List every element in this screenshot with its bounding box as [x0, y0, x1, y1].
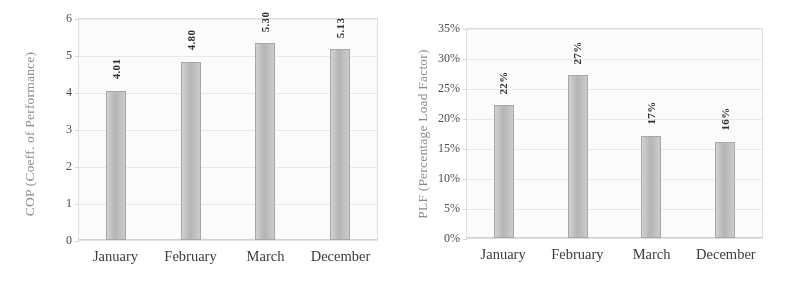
cop-x-category-labels: January February March December	[78, 248, 378, 265]
plf-chart-panel: PLF (Percentage Load Factor) 35% 30% 25%…	[396, 0, 793, 287]
plf-xlabel-january: January	[466, 246, 540, 263]
cop-bar-january[interactable]	[106, 91, 126, 240]
cop-ytick-3: 3	[66, 122, 72, 137]
cop-xlabel-february: February	[153, 248, 228, 265]
cop-bar-label-march: 5.30	[259, 12, 271, 32]
plf-ytick-35: 35%	[438, 21, 460, 36]
cop-tick-0	[75, 241, 79, 242]
cop-chart-panel: COP (Coeff. of Performance) 6 5 4 3 2 1 …	[0, 0, 396, 287]
cop-ytick-6: 6	[66, 11, 72, 26]
cop-ytick-1: 1	[66, 196, 72, 211]
cop-bar-label-february: 4.80	[185, 30, 197, 50]
plf-ytick-10: 10%	[438, 171, 460, 186]
cop-bar-february[interactable]	[181, 62, 201, 240]
plf-ytick-15: 15%	[438, 141, 460, 156]
cop-ytick-4: 4	[66, 85, 72, 100]
cop-ytick-2: 2	[66, 159, 72, 174]
cop-bar-slot-february: 4.80	[154, 19, 229, 240]
plf-bar-slot-december: 16%	[688, 29, 762, 238]
cop-xlabel-december: December	[303, 248, 378, 265]
plf-bar-label-march: 17%	[645, 102, 657, 125]
plf-ytick-30: 30%	[438, 51, 460, 66]
plf-tick-0	[463, 239, 467, 240]
plf-bar-slot-march: 17%	[615, 29, 689, 238]
plf-bar-label-february: 27%	[572, 42, 584, 65]
figure-container: COP (Coeff. of Performance) 6 5 4 3 2 1 …	[0, 0, 793, 287]
plf-xlabel-february: February	[540, 246, 614, 263]
plf-bar-label-january: 22%	[498, 72, 510, 95]
plf-bar-march[interactable]	[641, 136, 661, 239]
plf-bar-slot-january: 22%	[467, 29, 541, 238]
cop-bar-slot-december: 5.13	[303, 19, 378, 240]
plf-bars: 22% 27% 17% 16%	[467, 29, 762, 238]
plf-y-tick-labels: 35% 30% 25% 20% 15% 10% 5% 0%	[418, 28, 460, 238]
plf-plot-area: 22% 27% 17% 16%	[466, 28, 763, 239]
plf-bar-february[interactable]	[568, 75, 588, 238]
cop-bar-label-december: 5.13	[334, 18, 346, 38]
plf-bar-slot-february: 27%	[541, 29, 615, 238]
cop-ytick-0: 0	[66, 233, 72, 248]
plf-ytick-20: 20%	[438, 111, 460, 126]
cop-ytick-5: 5	[66, 48, 72, 63]
plf-ytick-0: 0%	[444, 231, 460, 246]
plf-bar-label-december: 16%	[719, 108, 731, 131]
cop-bars: 4.01 4.80 5.30 5.13	[79, 19, 377, 240]
cop-bar-december[interactable]	[330, 49, 350, 240]
cop-bar-slot-march: 5.30	[228, 19, 303, 240]
plf-xlabel-december: December	[689, 246, 763, 263]
plf-ytick-25: 25%	[438, 81, 460, 96]
plf-bar-december[interactable]	[715, 142, 735, 239]
plf-bar-january[interactable]	[494, 105, 514, 238]
plf-x-category-labels: January February March December	[466, 246, 763, 263]
plf-ytick-5: 5%	[444, 201, 460, 216]
cop-y-axis-title: COP (Coeff. of Performance)	[22, 34, 38, 234]
cop-bar-slot-january: 4.01	[79, 19, 154, 240]
cop-xlabel-march: March	[228, 248, 303, 265]
cop-xlabel-january: January	[78, 248, 153, 265]
cop-bar-label-january: 4.01	[110, 59, 122, 79]
cop-plot-area: 4.01 4.80 5.30 5.13	[78, 18, 378, 241]
plf-xlabel-march: March	[615, 246, 689, 263]
cop-y-tick-labels: 6 5 4 3 2 1 0	[38, 18, 72, 240]
cop-bar-march[interactable]	[255, 43, 275, 240]
